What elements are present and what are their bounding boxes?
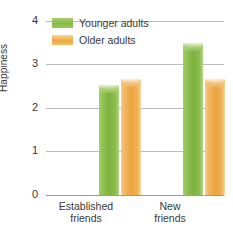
- y-tick-label-4: 4: [12, 15, 38, 26]
- legend-item-older-adults: Older adults: [52, 33, 149, 47]
- y-tick-label-3: 3: [12, 58, 38, 69]
- bar-cap: [183, 43, 203, 52]
- y-axis-title: Happiness: [0, 44, 9, 92]
- x-tick-line-2: friends: [38, 212, 134, 224]
- bar-established-friends-older-adults: [121, 79, 141, 195]
- bar-cap: [99, 85, 119, 94]
- y-tick-label-1: 1: [12, 145, 38, 156]
- bar-cap: [205, 79, 225, 88]
- happiness-bar-chart: Happiness 4 3 2 1 0 Younger adults: [0, 0, 233, 238]
- x-tick-label-new-friends: New friends: [122, 200, 218, 224]
- bar-established-friends-younger-adults: [99, 85, 119, 195]
- x-tick-line-1: Established: [59, 200, 113, 212]
- legend-label-younger-adults: Younger adults: [79, 18, 149, 29]
- y-tick-label-2: 2: [12, 102, 38, 113]
- legend-label-older-adults: Older adults: [79, 35, 136, 46]
- x-tick-line-1: New: [159, 200, 180, 212]
- bar-new-friends-younger-adults: [183, 43, 203, 195]
- legend-swatch-green-icon: [52, 18, 73, 28]
- bar-new-friends-older-adults: [205, 79, 225, 195]
- bar-cap: [121, 79, 141, 88]
- x-tick-label-established-friends: Established friends: [38, 200, 134, 224]
- legend: Younger adults Older adults: [52, 16, 149, 50]
- legend-swatch-orange-icon: [52, 35, 73, 45]
- legend-item-younger-adults: Younger adults: [52, 16, 149, 30]
- x-tick-line-2: friends: [122, 212, 218, 224]
- y-tick-label-0: 0: [12, 189, 38, 200]
- gridline-0-baseline: [46, 195, 224, 196]
